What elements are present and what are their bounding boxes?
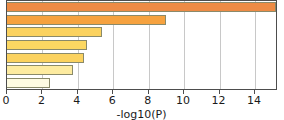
plot-area (6, 0, 277, 90)
x-axis-tick-label: 12 (212, 94, 226, 107)
bar-row (7, 40, 276, 50)
bar-row (7, 2, 276, 12)
x-axis: 02468101214 -log10(P) (6, 90, 277, 120)
x-axis-tick-label: 0 (3, 94, 10, 107)
bar[interactable] (7, 27, 102, 37)
x-axis-tick-label: 6 (109, 94, 116, 107)
bar-row (7, 15, 276, 25)
bar[interactable] (7, 40, 87, 50)
x-axis-tick-label: 14 (247, 94, 261, 107)
bar-row (7, 65, 276, 75)
bar[interactable] (7, 53, 84, 63)
x-axis-tick-label: 8 (144, 94, 151, 107)
bar[interactable] (7, 78, 50, 88)
bar-row (7, 27, 276, 37)
bar-row (7, 53, 276, 63)
bar[interactable] (7, 15, 166, 25)
x-axis-tick-label: 10 (176, 94, 190, 107)
bar-series (7, 1, 276, 89)
bar-chart: 02468101214 -log10(P) (0, 0, 284, 120)
x-axis-title: -log10(P) (6, 108, 277, 120)
x-axis-tick-label: 4 (73, 94, 80, 107)
bar[interactable] (7, 65, 73, 75)
bar-row (7, 78, 276, 88)
bar[interactable] (7, 2, 276, 12)
x-axis-tick-label: 2 (38, 94, 45, 107)
